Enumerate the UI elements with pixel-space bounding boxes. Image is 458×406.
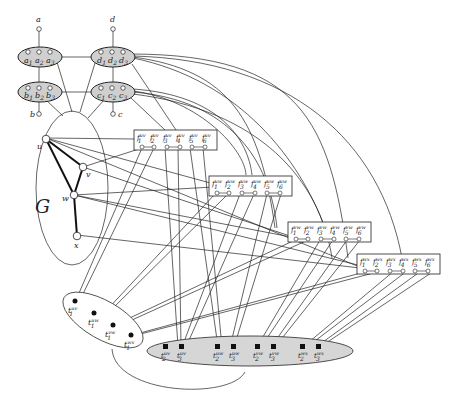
graph-label: G [35,195,50,217]
vertex-w [70,191,78,199]
svg-text:u: u [37,142,42,151]
terminal-c [111,112,116,117]
edge-gadget-vw: fvw1 fvw2 fvw3 fvw4 fvw5 fvw6 [288,222,371,242]
graph-g-ellipse [36,111,108,265]
terminal-b [37,112,42,117]
svg-text:v: v [86,170,91,179]
svg-text:a: a [36,15,41,24]
vertex-x [73,232,81,240]
svg-text:x: x [74,241,79,250]
graph-vertices [42,135,87,240]
svg-text:d: d [110,15,115,24]
edge-gadget-uw: fuw1 fuw2 fuw3 fuw4 fuw5 fuw6 [209,176,292,196]
edge-gadget-wx: fwx1 fwx2 fwx3 fwx4 fwx5 fwx6 [357,254,440,274]
vertex-u [42,135,50,143]
terminal-d [111,27,116,32]
cluster-labels: a1 a2 a3 d1 d2 d3 b1 b2 b3 c1 c2 c3 [24,56,128,101]
top-terminals [37,27,116,117]
t-left-ellipse [55,281,152,359]
terminal-a [37,27,42,32]
svg-text:c: c [118,110,123,119]
edge-gadget-uv: fuv1 fuv2 fuv3 fuv4 fuv5 fuv6 [134,130,217,150]
svg-text:b: b [30,110,35,119]
gadget-diagram: a1 a2 a3 d1 d2 d3 b1 b2 b3 c1 c2 c3 a d … [0,0,458,406]
svg-text:w: w [62,194,69,203]
graph-edges [46,139,83,236]
